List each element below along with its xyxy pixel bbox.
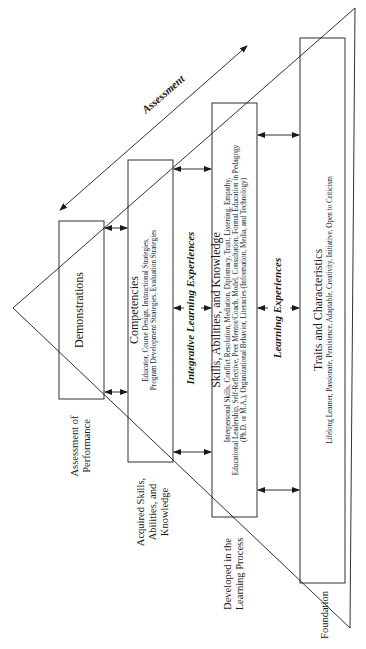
demonstrations-title: Demonstrations — [73, 250, 89, 370]
side-label-acquired-skills: Acquired Skills, Abilities, and Knowledg… — [135, 462, 175, 562]
competencies-text: Competencies Educator, Course Design, In… — [128, 190, 172, 430]
side-label-assessment-of-performance: Assessment of Performance — [69, 406, 97, 486]
level-boxes — [59, 38, 345, 583]
traits-title: Traits and Characteristics — [312, 145, 326, 475]
competencies-title: Competencies — [128, 190, 142, 430]
side-label-foundation: Foundation — [319, 580, 333, 649]
integrative-learning-label: Integrative Learning Experiences — [184, 208, 200, 408]
traits-text: Traits and Characteristics Lifelong Lear… — [312, 145, 342, 475]
traits-body-line: Lifelong Learner, Passionate, Persistenc… — [326, 145, 334, 475]
skills-body-line: Educational Leadership, Self-Reflective,… — [232, 130, 240, 490]
skills-body-line: (Ph.D. or M.A.), Organizational Behavior… — [240, 130, 248, 490]
learning-experiences-label: Learning Experiences — [271, 248, 287, 368]
skills-body-line: Interpersonal Skills, Conflict Resolutio… — [224, 130, 232, 490]
competencies-body-line: Program Development Strategies, Evaluati… — [150, 190, 158, 430]
side-label-developed-in-learning-process: Developed in the Learning Process — [222, 524, 250, 624]
competencies-body-line: Educator, Course Design, Instructional S… — [142, 190, 150, 430]
skills-title: Skills, Abilities, and Knowledge — [210, 130, 224, 490]
skills-text: Skills, Abilities, and Knowledge Interpe… — [210, 130, 260, 490]
